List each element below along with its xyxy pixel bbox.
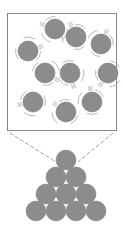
particle-diagram bbox=[0, 0, 123, 234]
particle bbox=[23, 92, 43, 112]
stacked-particle bbox=[36, 184, 56, 204]
particle bbox=[82, 92, 102, 112]
particle bbox=[60, 63, 80, 83]
stacked-particle bbox=[46, 167, 66, 187]
stacked-particle bbox=[86, 201, 106, 221]
stacked-particle bbox=[66, 167, 86, 187]
stacked-particle bbox=[76, 184, 96, 204]
stacked-particle bbox=[26, 201, 46, 221]
stacked-particle bbox=[56, 150, 76, 170]
particle bbox=[98, 63, 118, 83]
stacked-particles bbox=[26, 150, 106, 221]
zoom-line bbox=[10, 133, 56, 162]
particle bbox=[91, 34, 111, 54]
particle bbox=[56, 102, 76, 122]
particle bbox=[66, 27, 86, 47]
stacked-particle bbox=[66, 201, 86, 221]
particle bbox=[35, 63, 55, 83]
zoom-line bbox=[78, 133, 113, 162]
stacked-particle bbox=[46, 201, 66, 221]
particle bbox=[18, 41, 38, 61]
stacked-particle bbox=[56, 184, 76, 204]
